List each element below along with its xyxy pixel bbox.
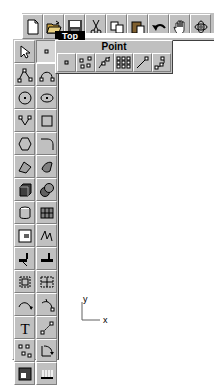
fillet-button[interactable] — [36, 132, 57, 155]
rotate-button[interactable] — [36, 339, 57, 362]
render-button[interactable] — [14, 362, 35, 385]
offset-icon — [39, 251, 55, 267]
circle-button[interactable] — [14, 86, 35, 109]
select-button[interactable] — [14, 40, 35, 63]
arc-icon — [17, 113, 33, 129]
rectangle-button[interactable] — [36, 109, 57, 132]
split-icon — [39, 228, 55, 244]
x-axis-label: x — [103, 315, 108, 325]
point-icon — [59, 55, 74, 70]
arc-button[interactable] — [14, 109, 35, 132]
ellipse-icon — [39, 90, 55, 106]
trim-button[interactable] — [14, 224, 35, 247]
group-button[interactable] — [14, 270, 35, 293]
polygon-icon — [17, 136, 33, 152]
cylinder-button[interactable] — [14, 201, 35, 224]
point-flyout-panel: Point — [55, 40, 173, 74]
ungroup-icon — [39, 274, 55, 290]
box-button[interactable] — [14, 178, 35, 201]
text-button[interactable]: T — [14, 316, 35, 339]
point-icon — [39, 44, 55, 60]
dimension-arc-button[interactable] — [14, 293, 35, 316]
divide-curve-points-button[interactable] — [95, 53, 114, 72]
extend-icon — [17, 251, 33, 267]
y-axis-label: y — [83, 294, 88, 304]
curve-points-icon — [97, 55, 112, 70]
flyout-title: Point — [56, 41, 172, 53]
box-icon — [17, 182, 33, 198]
viewport-title[interactable]: Top — [55, 31, 85, 40]
rotate-icon — [39, 343, 55, 359]
rectangle-icon — [39, 113, 55, 129]
point-grid-icon — [116, 55, 131, 70]
scale-button[interactable] — [36, 316, 57, 339]
svg-text:T: T — [20, 321, 29, 336]
single-point-button[interactable] — [57, 53, 76, 72]
dimension-radius-icon — [39, 297, 55, 313]
surface-icon — [17, 159, 33, 175]
fillet-icon — [39, 136, 55, 152]
curve-button[interactable] — [36, 63, 57, 86]
circle-icon — [17, 90, 33, 106]
polyline-button[interactable] — [14, 63, 35, 86]
line-point-icon — [135, 55, 150, 70]
surface-from-points-button[interactable] — [14, 155, 35, 178]
properties-icon — [39, 366, 55, 382]
extend-button[interactable] — [14, 247, 35, 270]
ungroup-button[interactable] — [36, 270, 57, 293]
split-button[interactable] — [36, 224, 57, 247]
scale-icon — [39, 320, 55, 336]
point-grid-button[interactable] — [114, 53, 133, 72]
loft-surface-button[interactable] — [36, 155, 57, 178]
left-toolbar: T — [12, 39, 59, 360]
cylinder-icon — [17, 205, 33, 221]
array-button[interactable] — [14, 339, 35, 362]
point-button[interactable] — [36, 40, 57, 63]
sphere-button[interactable] — [36, 178, 57, 201]
curve-icon — [39, 67, 55, 83]
new-file-button[interactable] — [22, 14, 43, 39]
ellipse-button[interactable] — [36, 86, 57, 109]
mesh-button[interactable] — [36, 201, 57, 224]
curve-control-points-button[interactable] — [152, 53, 171, 72]
array-icon — [17, 343, 33, 359]
group-icon — [17, 274, 33, 290]
viewport-title-bar — [85, 33, 214, 39]
polygon-button[interactable] — [14, 132, 35, 155]
properties-table-button[interactable] — [36, 362, 57, 385]
line-end-point-button[interactable] — [133, 53, 152, 72]
axis-indicator: y x — [79, 298, 119, 328]
arrow-cursor-icon — [17, 44, 33, 60]
mesh-icon — [39, 205, 55, 221]
dimension-radius-button[interactable] — [36, 293, 57, 316]
multiple-points-button[interactable] — [76, 53, 95, 72]
offset-button[interactable] — [36, 247, 57, 270]
sphere-icon — [39, 182, 55, 198]
new-file-icon — [25, 19, 41, 35]
dimension-arc-icon — [17, 297, 33, 313]
render-icon — [17, 366, 33, 382]
trim-icon — [17, 228, 33, 244]
loft-surface-icon — [39, 159, 55, 175]
text-T-icon: T — [17, 320, 33, 336]
multi-point-icon — [78, 55, 93, 70]
polyline-icon — [17, 67, 33, 83]
curve-control-points-icon — [154, 55, 169, 70]
